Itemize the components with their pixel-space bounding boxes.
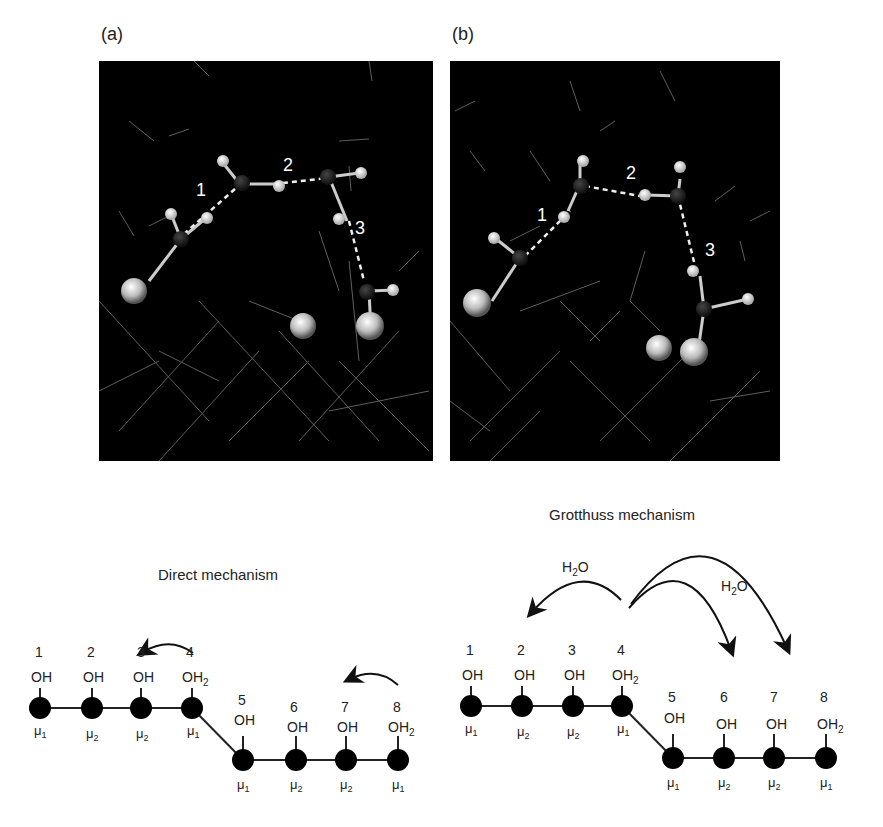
grotthuss-site-6-number: 6 xyxy=(720,689,728,705)
grotthuss-site-7-number: 7 xyxy=(770,689,778,705)
svg-text:μ2: μ2 xyxy=(136,726,149,743)
direct-site-2-group: OH xyxy=(83,669,104,685)
direct-site-2-mu: 2 xyxy=(94,733,99,743)
grotthuss-site-6-mu: 2 xyxy=(726,782,731,792)
direct-site-1-number: 1 xyxy=(35,644,43,660)
svg-text:μ2: μ2 xyxy=(768,775,781,792)
svg-text:μ1: μ1 xyxy=(667,775,680,792)
svg-text:OH2: OH2 xyxy=(182,669,209,688)
direct-arrow-8-to-7 xyxy=(350,674,398,685)
direct-site-6-group: OH xyxy=(287,719,308,735)
direct-site-4-mu: 1 xyxy=(195,730,200,740)
direct-site-5-number: 5 xyxy=(238,692,246,708)
grotthuss-site-5-mu: 1 xyxy=(675,782,680,792)
grotthuss-site-1-number: 1 xyxy=(466,642,474,658)
grotthuss-site-5-number: 5 xyxy=(668,689,676,705)
svg-text:μ2: μ2 xyxy=(718,775,731,792)
grotthuss-site-8-group: OH xyxy=(817,716,838,732)
direct-site-4-number: 4 xyxy=(186,644,194,660)
svg-text:OH2: OH2 xyxy=(388,719,415,738)
direct-site-7-mu: 2 xyxy=(348,784,353,794)
grotthuss-site-2-group: OH xyxy=(514,667,535,683)
svg-text:H2O: H2O xyxy=(562,559,589,578)
grotthuss-h2o-label-2: H xyxy=(721,578,731,594)
grotthuss-arrow-to-6 xyxy=(629,581,731,650)
grotthuss-site-7-mu: 2 xyxy=(776,782,781,792)
direct-site-5-mu: 1 xyxy=(245,784,250,794)
grotthuss-arrow-to-7 xyxy=(631,556,787,648)
grotthuss-site-4-number: 4 xyxy=(617,642,625,658)
direct-site-8-group: OH xyxy=(388,719,409,735)
grotthuss-site-7-group: OH xyxy=(766,716,787,732)
grotthuss-site-1-mu: 1 xyxy=(473,728,478,738)
grotthuss-site-8-mu: 1 xyxy=(828,782,833,792)
direct-site-3-group: OH xyxy=(133,669,154,685)
grotthuss-arrow-to-2 xyxy=(532,582,621,612)
direct-site-2-number: 2 xyxy=(87,644,95,660)
direct-site-3-mu: 2 xyxy=(144,733,149,743)
grotthuss-site-6-group: OH xyxy=(716,716,737,732)
direct-site-1-group: OH xyxy=(31,669,52,685)
grotthuss-site-2-mu: 2 xyxy=(525,731,530,741)
direct-site-7-group: OH xyxy=(337,719,358,735)
svg-text:μ2: μ2 xyxy=(340,777,353,794)
direct-site-6-mu: 2 xyxy=(298,784,303,794)
svg-text:μ1: μ1 xyxy=(820,775,833,792)
grotthuss-site-1-group: OH xyxy=(462,667,483,683)
svg-text:μ1: μ1 xyxy=(465,721,478,738)
grotthuss-site-3-mu: 2 xyxy=(575,731,580,741)
direct-site-6-number: 6 xyxy=(290,699,298,715)
direct-site-1-mu: 1 xyxy=(42,730,47,740)
direct-site-8-number: 8 xyxy=(393,699,401,715)
grotthuss-site-5-group: OH xyxy=(664,710,685,726)
direct-site-7-number: 7 xyxy=(341,699,349,715)
svg-text:μ1: μ1 xyxy=(187,723,200,740)
direct-site-5-group: OH xyxy=(234,712,255,728)
grotthuss-site-3-group: OH xyxy=(564,667,585,683)
mechanism-schemes: 1 2 3 4 OH OH OH OH2 μ1 μ2 μ2 μ1 5 6 7 8… xyxy=(0,0,883,827)
svg-text:μ2: μ2 xyxy=(290,777,303,794)
grotthuss-site-2-number: 2 xyxy=(517,642,525,658)
svg-text:μ2: μ2 xyxy=(567,724,580,741)
direct-site-8-mu: 1 xyxy=(400,784,405,794)
direct-site-4-group: OH xyxy=(182,669,203,685)
svg-text:OH2: OH2 xyxy=(817,716,844,735)
grotthuss-site-8-number: 8 xyxy=(820,689,828,705)
svg-text:μ2: μ2 xyxy=(86,726,99,743)
grotthuss-site-4-group: OH xyxy=(612,667,633,683)
svg-text:μ2: μ2 xyxy=(517,724,530,741)
grotthuss-site-4-mu: 1 xyxy=(625,728,630,738)
svg-text:H2O: H2O xyxy=(721,578,748,597)
svg-text:μ1: μ1 xyxy=(617,721,630,738)
grotthuss-h2o-label-1: H xyxy=(562,559,572,575)
svg-text:μ1: μ1 xyxy=(392,777,405,794)
svg-text:μ1: μ1 xyxy=(237,777,250,794)
svg-text:μ1: μ1 xyxy=(34,723,47,740)
svg-text:OH2: OH2 xyxy=(612,667,639,686)
grotthuss-site-3-number: 3 xyxy=(568,642,576,658)
direct-site-3-number: 3 xyxy=(137,644,145,660)
